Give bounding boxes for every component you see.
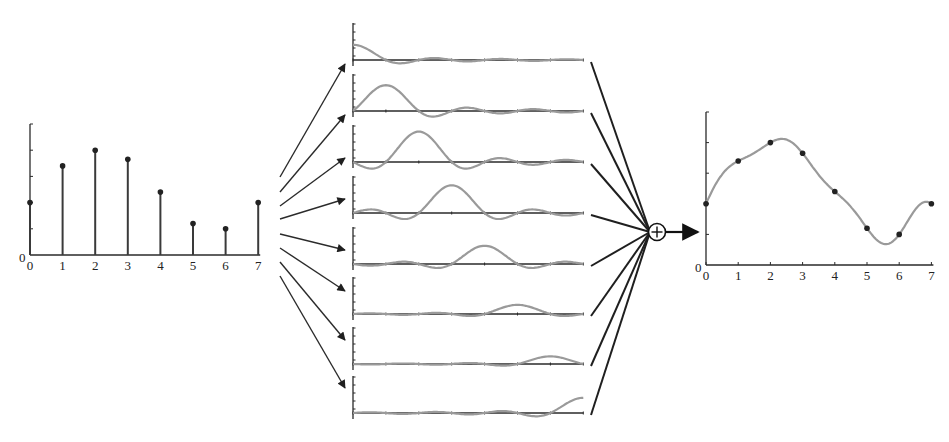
fan-arrow-icon [280,248,345,291]
converging-line [591,232,650,366]
x-tick-label: 4 [832,268,839,283]
x-tick-label: 7 [255,258,262,273]
reconstructed-sample-points [703,140,934,237]
sinc-panel-4 [353,227,583,270]
x-tick-label: 2 [767,268,774,283]
summation-input-lines [591,62,650,415]
stem-marker [92,147,98,153]
stem-marker [125,157,131,163]
left-y-origin-label: 0 [19,250,26,265]
sinc-panel-0 [353,23,583,66]
right-y-origin-label: 0 [695,260,702,275]
x-tick-label: 4 [157,258,164,273]
stem-marker [27,200,33,206]
sinc-curve [353,85,583,116]
stem-marker [255,200,261,206]
sinc-kernel-panels [353,23,583,419]
sinc-curve [353,45,583,64]
stem-plot-stems [27,147,261,255]
fan-arrow-icon [280,262,345,340]
sinc-curve [353,398,583,417]
sinc-curve [353,185,583,219]
sample-point [832,189,838,195]
distribution-arrows [280,64,345,388]
converging-line [591,232,650,415]
stem-marker [158,189,164,195]
stem-marker [223,226,229,232]
sinc-interpolation-diagram: 0 01234567 0 01234567 [0,0,949,442]
sample-point [703,201,709,207]
x-tick-label: 0 [27,258,34,273]
x-tick-label: 1 [59,258,66,273]
x-tick-label: 5 [190,258,197,273]
x-tick-label: 6 [896,268,903,283]
fan-arrow-icon [280,199,345,219]
reconstructed-signal-plot: 0 01234567 [695,112,935,283]
sinc-panel-2 [353,125,583,169]
diagram-canvas: 0 01234567 0 01234567 [0,0,949,442]
x-tick-label: 7 [928,268,935,283]
sample-point [768,140,774,146]
fan-arrow-icon [280,158,345,206]
sample-point [735,158,741,164]
fan-arrow-icon [280,115,345,192]
sample-point [929,201,935,207]
x-tick-label: 3 [799,268,806,283]
converging-line [591,215,650,232]
x-tick-label: 5 [864,268,871,283]
sinc-panel-6 [353,327,583,370]
stem-marker [60,163,66,169]
sinc-panel-1 [353,74,583,117]
sample-point [864,225,870,231]
reconstructed-plot-x-tick-labels: 01234567 [703,268,935,283]
stem-plot-x-tick-labels: 01234567 [27,258,262,273]
converging-line [591,113,650,232]
sinc-curve [353,132,583,169]
sample-point [896,232,902,238]
fan-arrow-icon [280,64,345,177]
stem-marker [190,221,196,227]
sinc-curve [353,246,583,268]
x-tick-label: 6 [222,258,229,273]
sinc-panel-3 [353,176,583,219]
converging-line [591,232,650,316]
x-tick-label: 0 [703,268,710,283]
x-tick-label: 2 [92,258,99,273]
x-tick-label: 3 [125,258,132,273]
sample-stem-plot: 0 01234567 [19,124,262,273]
fan-arrow-icon [280,276,345,388]
x-tick-label: 1 [735,268,742,283]
reconstructed-curve [706,139,931,244]
fan-arrow-icon [280,234,345,250]
reconstructed-plot-axes [706,112,933,265]
sample-point [800,151,806,157]
sinc-panel-5 [353,277,583,320]
converging-line [591,62,650,232]
sinc-panel-7 [353,376,583,419]
summation-node [649,224,699,241]
